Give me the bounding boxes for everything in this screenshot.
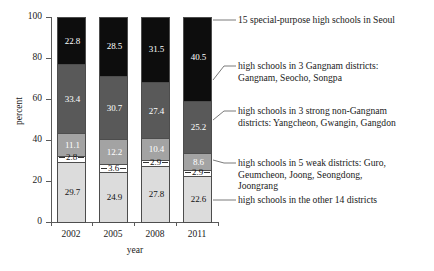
x-tick-label-2002: 2002 (51, 229, 91, 240)
segment-2005-weak5-label: 3.6 (94, 164, 133, 173)
bar-2008[interactable]: 27.8 10.4 27.4 31.5 (141, 17, 170, 223)
x-tick-right (218, 222, 219, 226)
segment-2002-gangnam3[interactable]: 33.4 (57, 64, 86, 133)
y-tick-label-0: 0 (16, 217, 42, 227)
leader-weak-5 (213, 160, 236, 163)
legend-line: Geumcheon, Joong, Seongdong, (238, 169, 434, 181)
legend-line: Joongrang (238, 180, 434, 192)
segment-2002-other14[interactable]: 29.7 (57, 162, 86, 223)
x-tick-left (51, 222, 52, 226)
bar-2011[interactable]: 22.6 8.6 25.2 40.5 (183, 17, 212, 223)
legend-line: districts: Yangcheon, Gwangin, Gangdon (238, 117, 434, 129)
x-tick-label-2011: 2011 (177, 229, 217, 240)
legend-line: high schools in 5 weak districts: Guro, (238, 157, 434, 169)
legend-entry-other-14: high schools in the other 14 districts (238, 194, 434, 206)
legend-entry-weak-5: high schools in 5 weak districts: Guro, … (238, 157, 434, 192)
x-tick-1 (92, 222, 93, 226)
x-tick-2 (134, 222, 135, 226)
segment-2011-special[interactable]: 40.5 (183, 17, 212, 100)
bar-2002[interactable]: 29.7 11.1 33.4 22.8 (57, 17, 86, 223)
leader-non-gangnam-3 (213, 111, 236, 120)
y-tick-20 (46, 181, 51, 182)
y-tick-100 (46, 17, 51, 18)
y-tick-label-100: 100 (16, 12, 42, 22)
legend-entry-special-purpose: 15 special-purpose high schools in Seoul (238, 14, 434, 26)
legend-entry-gangnam-3: high schools in 3 Gangnam districts: Gan… (238, 60, 434, 83)
legend-line: high schools in 3 strong non-Gangnam (238, 105, 434, 117)
y-tick-80 (46, 58, 51, 59)
segment-2005-other14[interactable]: 24.9 (99, 172, 128, 223)
segment-2008-weak5-label: 2.9 (136, 158, 175, 167)
x-tick-3 (176, 222, 177, 226)
segment-2011-gangnam3[interactable]: 25.2 (183, 101, 212, 153)
x-axis-title: year (51, 245, 219, 255)
segment-2008-gangnam3[interactable]: 27.4 (141, 82, 170, 138)
leader-gangnam-3 (213, 66, 236, 80)
segment-2005-special[interactable]: 28.5 (99, 17, 128, 76)
x-tick-label-2005: 2005 (93, 229, 133, 240)
segment-2005-gangnam3[interactable]: 30.7 (99, 76, 128, 139)
y-tick-40 (46, 140, 51, 141)
legend-line: high schools in the other 14 districts (238, 194, 434, 206)
segment-2005-nongangnam3[interactable]: 12.2 (99, 139, 128, 164)
x-tick-label-2008: 2008 (135, 229, 175, 240)
legend-line: high schools in 3 Gangnam districts: (238, 60, 434, 72)
legend-line: Gangnam, Seocho, Songpa (238, 72, 434, 84)
y-axis-title: percent (14, 81, 24, 141)
bar-2005[interactable]: 24.9 12.2 30.7 28.5 (99, 17, 128, 223)
segment-2011-other14[interactable]: 22.6 (183, 176, 212, 223)
y-tick-label-20: 20 (16, 176, 42, 186)
segment-2008-other14[interactable]: 27.8 (141, 166, 170, 223)
y-tick-label-80: 80 (16, 53, 42, 63)
segment-2011-weak5-label: 2.9 (178, 168, 217, 177)
segment-2002-special[interactable]: 22.8 (57, 17, 86, 64)
y-axis-line (51, 17, 52, 223)
y-tick-60 (46, 99, 51, 100)
legend-line: 15 special-purpose high schools in Seoul (238, 14, 434, 26)
legend-entry-non-gangnam-3: high schools in 3 strong non-Gangnam dis… (238, 105, 434, 128)
segment-2008-special[interactable]: 31.5 (141, 17, 170, 82)
stacked-bar-chart: 100 80 60 40 20 0 percent year 2002 2005… (0, 0, 434, 271)
segment-2002-weak5-label: 2.8 (52, 153, 91, 162)
